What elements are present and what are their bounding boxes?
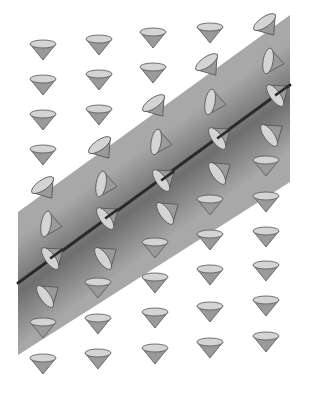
cone-icon bbox=[86, 105, 112, 125]
cone-icon bbox=[197, 23, 223, 43]
director-field-diagram bbox=[0, 0, 314, 401]
cone-icon bbox=[253, 332, 279, 352]
cone-icon bbox=[253, 227, 279, 247]
cone-icon bbox=[30, 110, 56, 130]
cone-icon bbox=[30, 145, 56, 165]
cone-icon bbox=[253, 296, 279, 316]
cone-icon bbox=[30, 40, 56, 60]
cone-icon bbox=[142, 273, 168, 293]
cone-icon bbox=[30, 75, 56, 95]
cone-icon bbox=[140, 28, 166, 48]
cone-icon bbox=[197, 265, 223, 285]
cone-icon bbox=[197, 302, 223, 322]
cone-icon bbox=[85, 349, 111, 369]
cone-icon bbox=[86, 35, 112, 55]
cone-icon bbox=[253, 261, 279, 281]
cone-icon bbox=[197, 338, 223, 358]
cone-icon bbox=[86, 70, 112, 90]
diagram-canvas bbox=[0, 0, 314, 401]
cone-icon bbox=[30, 354, 56, 374]
cone-icon bbox=[197, 230, 223, 250]
cone-icon bbox=[140, 63, 166, 83]
cone-icon bbox=[142, 308, 168, 328]
cone-icon bbox=[142, 344, 168, 364]
cone-icon bbox=[85, 314, 111, 334]
